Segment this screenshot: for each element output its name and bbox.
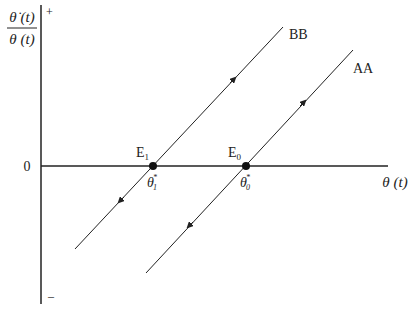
label-e0: E0 xyxy=(228,145,242,162)
origin-label: 0 xyxy=(24,159,31,174)
equilibrium-point-e0 xyxy=(242,162,250,170)
y-axis-label-numerator: θ̇ (t) xyxy=(9,9,34,26)
arrow-aa-down xyxy=(189,222,193,226)
line-bb xyxy=(75,27,283,249)
arrow-bb-down xyxy=(120,197,124,201)
label-bb: BB xyxy=(289,27,308,42)
equilibrium-point-e1 xyxy=(149,162,157,170)
arrow-bb-up xyxy=(230,79,234,83)
label-theta1-star: θ*1 xyxy=(147,173,157,192)
y-minus-sign: – xyxy=(47,289,55,303)
label-theta0-star: θ*0 xyxy=(240,173,250,192)
line-aa xyxy=(146,50,353,273)
phase-diagram: θ̇ (t) θ (t) + – 0 θ (t) BB AA E1 θ*1 E0… xyxy=(0,0,417,322)
y-axis-label-denominator: θ (t) xyxy=(9,31,34,48)
label-aa: AA xyxy=(353,61,374,76)
label-e1: E1 xyxy=(136,145,149,162)
x-axis-label: θ (t) xyxy=(382,174,407,191)
y-plus-sign: + xyxy=(46,5,53,19)
